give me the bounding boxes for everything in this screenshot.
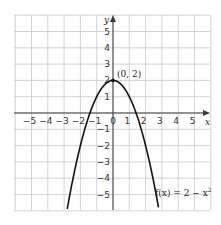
svg-text:−4: −4 [97, 173, 111, 183]
svg-text:1: 1 [104, 92, 110, 102]
x-axis-label: x [205, 117, 210, 127]
svg-text:3: 3 [157, 116, 163, 126]
svg-text:−5: −5 [97, 190, 110, 200]
svg-text:4: 4 [104, 43, 110, 53]
svg-text:−2: −2 [72, 116, 85, 126]
svg-text:−1: −1 [97, 124, 110, 134]
function-label: f(x) = 2 − x2 [155, 186, 212, 198]
svg-text:−3: −3 [55, 116, 68, 126]
svg-text:5: 5 [190, 116, 196, 126]
vertex-label: (0, 2) [117, 69, 141, 79]
svg-text:−2: −2 [97, 141, 110, 151]
vertex-point [111, 79, 115, 83]
svg-text:−5: −5 [23, 116, 36, 126]
svg-text:−4: −4 [39, 116, 53, 126]
svg-text:4: 4 [173, 116, 179, 126]
y-axis-label: y [103, 15, 110, 25]
function-exponent: 2 [208, 186, 212, 193]
svg-text:−3: −3 [97, 157, 110, 167]
svg-text:3: 3 [104, 59, 110, 69]
x-axis-arrow-icon [203, 110, 210, 116]
svg-text:2: 2 [141, 116, 147, 126]
svg-text:1: 1 [124, 116, 130, 126]
y-axis-arrow-icon [110, 15, 116, 22]
coordinate-plane: −5−4−3−2−101234554321−1−2−3−4−5 x y (0, … [0, 0, 221, 225]
svg-text:0: 0 [110, 116, 116, 126]
function-text: f(x) = 2 − x [155, 188, 208, 198]
svg-text:5: 5 [104, 27, 110, 37]
